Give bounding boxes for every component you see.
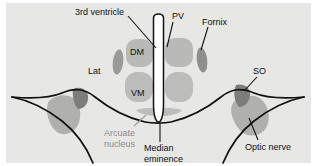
- leader-line-fornix: [201, 27, 208, 50]
- leader-line-arcuate-nucleus: [134, 115, 146, 126]
- label-vm: VM: [131, 88, 145, 98]
- label-fornix: Fornix: [202, 17, 227, 27]
- leader-line-so: [244, 77, 257, 91]
- third-ventricle-shape: [154, 14, 164, 122]
- label-dm: DM: [130, 47, 144, 57]
- label-arcuate-nucleus-line1: Arcuate: [104, 128, 135, 138]
- dorsomedial-nucleus-right-shape: [165, 38, 193, 67]
- label-median-eminence-line1: Median: [144, 143, 174, 153]
- label-optic-nerve: Optic nerve: [245, 142, 291, 152]
- figure-root: 3rd ventricle PV Fornix DM VM Lat SO Arc…: [0, 0, 317, 166]
- label-lat: Lat: [88, 66, 101, 76]
- label-pv: PV: [172, 11, 184, 21]
- fornix-right-shape: [195, 47, 208, 73]
- label-arcuate-nucleus-line2: nucleus: [104, 139, 135, 149]
- ventromedial-nucleus-right-shape: [165, 72, 193, 102]
- label-third-ventricle: 3rd ventricle: [75, 7, 124, 17]
- fornix-left-shape: [111, 49, 124, 75]
- label-median-eminence-line2: eminence: [144, 154, 183, 164]
- label-so: SO: [253, 66, 266, 76]
